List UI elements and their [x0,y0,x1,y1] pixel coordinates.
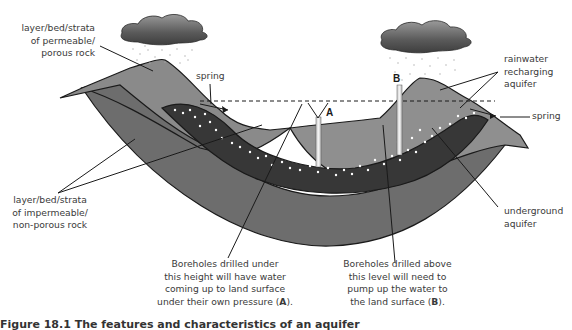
label-line: Boreholes drilled under [150,258,300,271]
label-text: ). [438,296,445,307]
label-line: this height will have water [150,271,300,284]
label-line: recharging [504,66,553,79]
label-line: Boreholes drilled above [330,258,465,271]
label-impermeable-rock: layer/bed/strata of impermeable/ non-por… [10,194,90,232]
marker-b: B [393,73,400,84]
label-line: this level will need to [330,271,465,284]
cloud-left [121,14,207,63]
label-permeable-rock: layer/bed/strata of permeable/ porous ro… [20,22,95,60]
label-line: rainwater [504,53,553,66]
label-line: layer/bed/strata [20,22,95,35]
label-borehole-a: Boreholes drilled under this height will… [150,258,300,308]
label-line: of impermeable/ [10,207,90,220]
label-underground-aquifer: underground aquifer [504,205,563,230]
label-line: of permeable/ [20,35,95,48]
borehole-a [316,117,321,167]
label-line: under their own pressure (A). [150,296,300,309]
label-line: non-porous rock [10,219,90,232]
label-line: porous rock [20,47,95,60]
label-line: pump up the water to [330,283,465,296]
label-line: aquifer [504,78,553,91]
label-line: coming up to land surface [150,283,300,296]
figure-caption: Figure 18.1 The features and characteris… [0,318,360,330]
label-line: aquifer [504,218,563,231]
label-borehole-b: Boreholes drilled above this level will … [330,258,465,308]
label-line: underground [504,205,563,218]
label-rainwater-recharging: rainwater recharging aquifer [504,53,553,91]
label-text: under their own pressure ( [157,296,279,307]
label-line: the land surface (B). [330,296,465,309]
label-spring-left: spring [196,70,225,83]
label-line: layer/bed/strata [10,194,90,207]
borehole-b [397,85,402,155]
label-text: ). [286,296,293,307]
borehole-a-arrows [308,103,328,118]
cloud-right [381,21,471,81]
label-text: the land surface ( [350,296,431,307]
marker-a: A [326,107,333,118]
label-spring-right: spring [532,110,561,123]
